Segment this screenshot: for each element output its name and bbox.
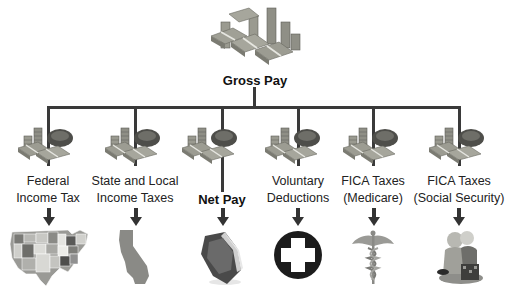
root-connector	[253, 87, 256, 108]
branch-label-socialsecurity: FICA Taxes (Social Security)	[404, 173, 513, 207]
money-stack-icon	[16, 124, 78, 166]
down-arrow-icon	[43, 208, 55, 226]
elderly-couple-icon	[435, 228, 485, 286]
money-pile-icon	[207, 2, 307, 68]
california-map-icon	[117, 228, 153, 286]
horizontal-connector	[47, 106, 461, 109]
money-stack-icon	[341, 124, 403, 166]
money-stack-icon	[263, 124, 325, 166]
down-arrow-icon	[453, 208, 465, 226]
down-arrow-icon	[130, 208, 142, 226]
money-stack-icon	[180, 124, 242, 166]
medical-cross-icon	[273, 230, 323, 280]
gross-pay-label: Gross Pay	[205, 73, 305, 88]
money-stack-icon	[427, 124, 489, 166]
money-stack-icon	[103, 124, 165, 166]
caduceus-icon	[350, 228, 396, 286]
wallet-icon	[197, 228, 249, 286]
down-arrow-icon	[217, 208, 229, 226]
down-arrow-icon	[368, 208, 380, 226]
down-arrow-icon	[292, 208, 304, 226]
us-map-icon	[8, 228, 90, 286]
